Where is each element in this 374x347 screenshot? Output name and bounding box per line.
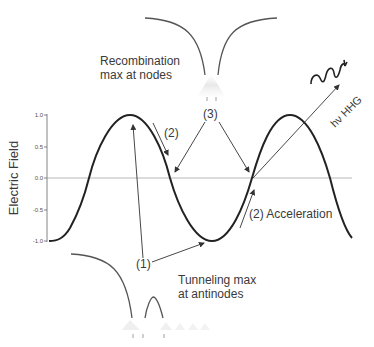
y-tick-1.0: 1.0 <box>35 112 44 118</box>
step1-label: (1) <box>136 257 151 271</box>
y-tick-0.0: 0.0 <box>35 175 44 181</box>
photon-wave-icon <box>311 60 347 84</box>
y-tick-neg-0.5: -0.5 <box>33 207 44 213</box>
step3-label: (3) <box>203 107 218 121</box>
acceleration-label: (2) Acceleration <box>249 207 332 221</box>
tunneling-label-line1: Tunneling max <box>178 273 256 287</box>
tunneling-label-line2: at antinodes <box>178 287 243 301</box>
recombination-label-line2: max at nodes <box>100 68 172 82</box>
hhg-label: hν HHG <box>328 93 364 129</box>
y-tick-neg-1.0: -1.0 <box>33 238 44 244</box>
recombination-label-line1: Recombination <box>100 54 180 68</box>
y-axis-label: Electric Field <box>6 141 21 215</box>
step2-label: (2) <box>164 126 179 140</box>
recombination-arrows <box>175 122 249 172</box>
y-tick-0.5: 0.5 <box>35 144 44 150</box>
y-axis <box>44 114 47 242</box>
hhg-diagram: Recombination max at nodes 1.0 0.5 0.0 -… <box>0 0 374 347</box>
tunneling-arrows <box>133 125 204 262</box>
